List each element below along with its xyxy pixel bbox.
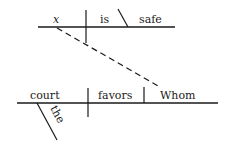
diagram-canvas: x is safe court favors Whom the (0, 0, 227, 152)
dashed-connector (57, 28, 160, 87)
upper-verb-word: is (100, 13, 110, 26)
sentence-diagram: x is safe court favors Whom the (0, 0, 227, 152)
modifier-word: the (47, 103, 67, 125)
main-verb-word: favors (98, 89, 133, 102)
upper-predicate-word: safe (139, 13, 162, 26)
upper-subject-word: x (53, 13, 60, 26)
main-object-word: Whom (160, 89, 196, 102)
upper-predicate-slant (118, 9, 128, 27)
main-subject-word: court (30, 89, 60, 102)
